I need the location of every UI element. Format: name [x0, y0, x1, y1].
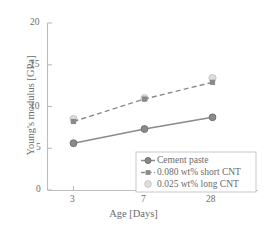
chart-figure: 20 15 10 5 0 3 7 28 Age [Days] Young's m…	[0, 0, 267, 231]
y-tick-label-0: 0	[36, 184, 41, 194]
chart-plot-area	[0, 0, 267, 231]
x-tick-label-3: 3	[70, 194, 75, 204]
y-axis-title: Young's modulus [GPa]	[25, 26, 36, 186]
x-tick-label-28: 28	[206, 194, 216, 204]
y-tick-marks	[48, 23, 53, 190]
series-cement-paste	[70, 114, 216, 147]
y-tick-label-5: 5	[36, 142, 41, 152]
legend-label-long-cnt[interactable]: 0.025 wt% long CNT	[157, 179, 239, 189]
legend-label-short-cnt[interactable]: 0.080 wt% short CNT	[157, 167, 241, 177]
x-axis-title: Age [Days]	[0, 208, 267, 219]
legend-label-cement-paste[interactable]: Cement paste	[157, 155, 208, 165]
x-tick-label-7: 7	[141, 194, 146, 204]
